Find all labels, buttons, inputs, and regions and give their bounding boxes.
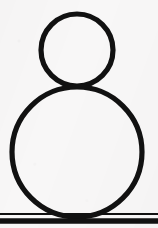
line-art-figure bbox=[0, 0, 158, 228]
artwork-canvas bbox=[0, 0, 158, 228]
